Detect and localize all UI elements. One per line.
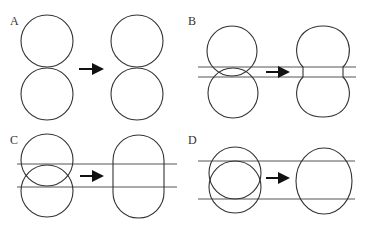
cell-circle-d	[209, 147, 261, 199]
cell-circle-c	[21, 134, 73, 186]
cell-circle-d	[209, 161, 261, 213]
merged-ellipse-d	[296, 148, 352, 214]
panel-label-b: B	[188, 14, 196, 29]
merged-peanut-b	[297, 26, 350, 117]
merged-capsule-c	[113, 135, 164, 218]
cell-circle-a	[21, 15, 73, 67]
cell-circle-a	[21, 68, 73, 120]
cell-circle-c	[21, 165, 73, 217]
panel-label-c: C	[10, 133, 18, 148]
fusion-diagram: A B C D	[0, 0, 365, 228]
merged-circle-a	[111, 68, 163, 120]
merged-circle-a	[111, 15, 163, 67]
panel-label-d: D	[188, 133, 197, 148]
panel-label-a: A	[10, 14, 19, 29]
diagram-canvas	[0, 0, 365, 228]
